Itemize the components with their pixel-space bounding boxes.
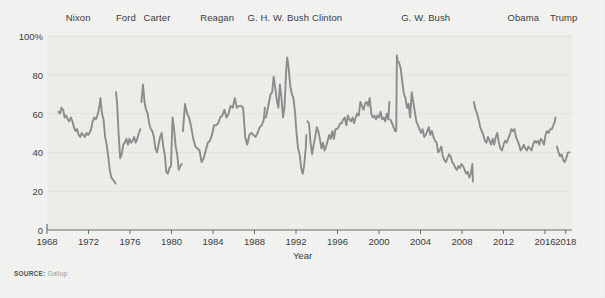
chart-figure: NixonFordCarterReaganG. H. W. BushClinto… [0,0,605,298]
series-line [58,98,115,183]
series-line [141,85,181,174]
axis-lines [47,224,572,230]
series-line [557,147,569,163]
gridlines [47,36,572,191]
chart-plot-area [0,0,605,298]
axis-ticks [47,230,566,234]
series-line [474,102,555,151]
series-line [307,98,389,154]
series-line [116,92,140,158]
